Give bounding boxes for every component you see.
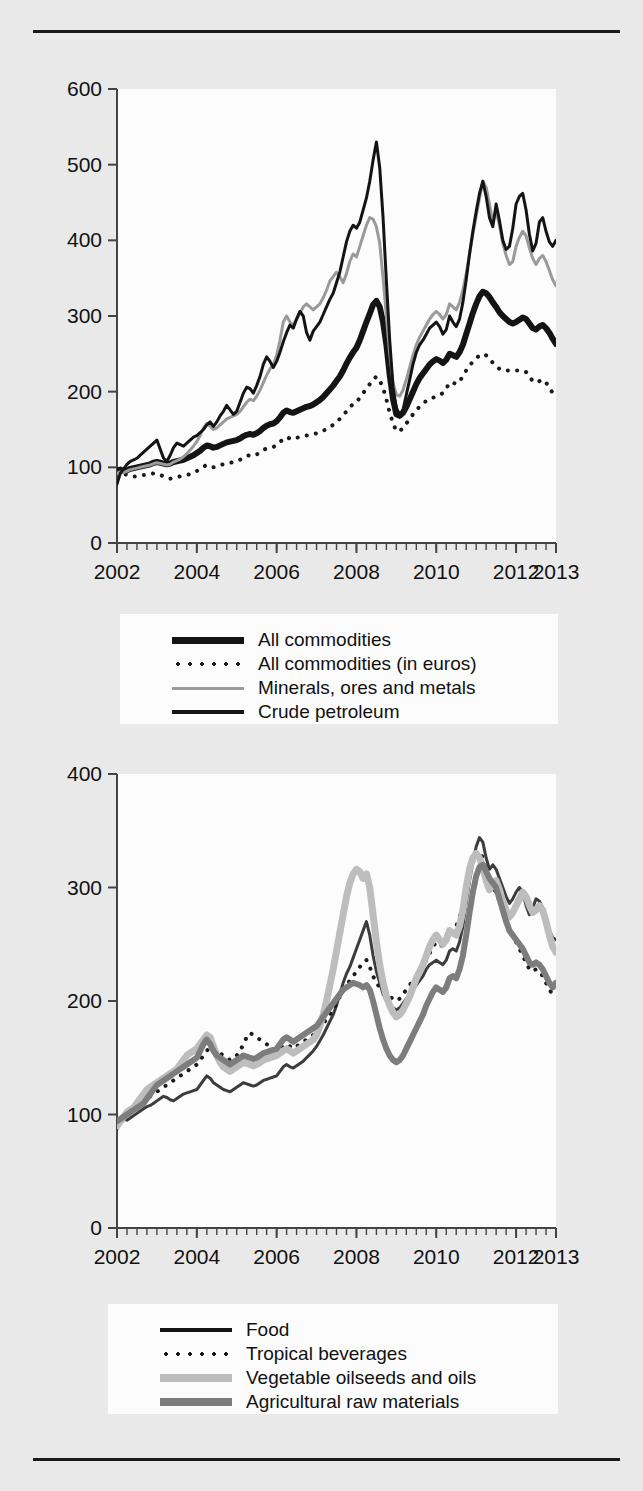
legend-swatch-line-icon [160,1371,232,1385]
page-canvas: 0100200300400500600200220042006200820102… [0,0,643,1491]
legend-top-list: All commoditiesAll commodities (in euros… [172,628,477,724]
legend-item-label: All commodities (in euros) [258,653,477,675]
legend-item[interactable]: Crude petroleum [172,700,477,724]
legend-item[interactable]: Vegetable oilseeds and oils [160,1366,476,1390]
legend-item-label: Minerals, ores and metals [258,677,476,699]
x-tick-label: 2010 [413,1245,460,1268]
legend-item-label: Vegetable oilseeds and oils [246,1367,476,1389]
legend-item-label: Crude petroleum [258,701,400,723]
top-rule [33,30,620,33]
y-tick-label: 200 [67,380,102,403]
legend-swatch-dotted-icon [160,1347,232,1361]
x-tick-label: 2008 [333,560,380,583]
legend-swatch-line-icon [172,681,244,695]
x-tick-label: 2004 [173,1245,220,1268]
legend-item[interactable]: All commodities (in euros) [172,652,477,676]
chart-bottom-agricultural: 0100200300400200220042006200820102012201… [0,745,643,1305]
legend-item-label: All commodities [258,629,391,651]
legend-item[interactable]: Food [160,1318,476,1342]
chart-bottom-svg: 0100200300400200220042006200820102012201… [0,745,643,1305]
legend-swatch-line-icon [160,1323,232,1337]
x-tick-label: 2002 [94,560,141,583]
dotted-line-icon [160,1352,232,1356]
chart-top-svg: 0100200300400500600200220042006200820102… [0,60,643,620]
solid-line-icon [160,1374,232,1382]
legend-item-label: Food [246,1319,289,1341]
y-tick-label: 200 [67,989,102,1012]
chart-top-commodities: 0100200300400500600200220042006200820102… [0,60,643,620]
legend-item-label: Tropical beverages [246,1343,407,1365]
legend-item-label: Agricultural raw materials [246,1391,459,1413]
solid-line-icon [172,710,244,714]
legend-swatch-line-icon [172,705,244,719]
legend-swatch-dotted-icon [172,657,244,671]
legend-bottom: FoodTropical beveragesVegetable oilseeds… [108,1304,558,1414]
y-tick-label: 500 [67,153,102,176]
x-tick-label: 2002 [94,1245,141,1268]
y-tick-label: 400 [67,228,102,251]
solid-line-icon [172,687,244,690]
y-tick-label: 100 [67,455,102,478]
solid-line-icon [172,637,244,644]
x-tick-label: 2006 [253,560,300,583]
legend-bottom-list: FoodTropical beveragesVegetable oilseeds… [160,1318,476,1414]
legend-item[interactable]: All commodities [172,628,477,652]
legend-top: All commoditiesAll commodities (in euros… [120,614,558,724]
bottom-rule [33,1458,620,1461]
y-tick-label: 300 [67,876,102,899]
y-tick-label: 0 [90,531,102,554]
legend-swatch-line-icon [160,1395,232,1409]
y-tick-label: 100 [67,1103,102,1126]
x-tick-label: 2013 [533,560,580,583]
y-tick-label: 600 [67,77,102,100]
x-tick-label: 2004 [173,560,220,583]
x-tick-label: 2013 [533,1245,580,1268]
x-tick-label: 2010 [413,560,460,583]
dotted-line-icon [172,662,244,666]
y-tick-label: 400 [67,762,102,785]
y-tick-label: 300 [67,304,102,327]
x-tick-label: 2006 [253,1245,300,1268]
x-tick-label: 2008 [333,1245,380,1268]
legend-item[interactable]: Tropical beverages [160,1342,476,1366]
legend-item[interactable]: Agricultural raw materials [160,1390,476,1414]
legend-swatch-line-icon [172,633,244,647]
solid-line-icon [160,1328,232,1332]
legend-item[interactable]: Minerals, ores and metals [172,676,477,700]
y-tick-label: 0 [90,1216,102,1239]
plot-area [117,89,556,543]
solid-line-icon [160,1398,232,1406]
